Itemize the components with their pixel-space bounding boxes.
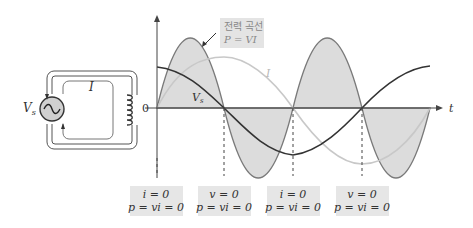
power-callout: 전력 곡선 P = VI	[202, 18, 264, 48]
svg-text:p = vi = 0: p = vi = 0	[128, 201, 184, 214]
callout-arrow-icon	[202, 41, 207, 47]
waveform-graph: t 0 Vs I 전력 곡선 P = VI i = 0 p = vi = 0 v…	[128, 15, 454, 216]
svg-text:v = 0: v = 0	[209, 188, 238, 201]
origin-label: 0	[142, 102, 149, 115]
current-loop	[63, 81, 113, 139]
svg-text:i = 0: i = 0	[143, 188, 170, 201]
source-label: Vs	[23, 101, 36, 117]
current-label: I	[88, 80, 94, 94]
svg-text:p = vi = 0: p = vi = 0	[334, 201, 390, 214]
axis-arrow-icon	[154, 15, 160, 22]
diagram-canvas: Vs I t 0 Vs I 전력 곡선 P = VI	[0, 0, 473, 228]
time-axis-label: t	[449, 102, 454, 115]
circuit-diagram: Vs I	[23, 71, 138, 149]
marker-label-1: v = 0 p = vi = 0	[196, 186, 252, 216]
ac-source-icon	[40, 97, 64, 121]
svg-text:p = vi = 0: p = vi = 0	[265, 201, 321, 214]
marker-label-0: i = 0 p = vi = 0	[128, 186, 184, 216]
marker-label-2: i = 0 p = vi = 0	[265, 186, 321, 216]
svg-text:전력 곡선: 전력 곡선	[224, 21, 263, 32]
current-curve-label: I	[265, 67, 271, 80]
axis-arrow-icon	[436, 105, 443, 111]
svg-text:v = 0: v = 0	[347, 188, 376, 201]
svg-text:i = 0: i = 0	[280, 188, 307, 201]
svg-text:P = VI: P = VI	[223, 34, 258, 45]
svg-text:p = vi = 0: p = vi = 0	[196, 201, 252, 214]
marker-label-3: v = 0 p = vi = 0	[334, 186, 390, 216]
